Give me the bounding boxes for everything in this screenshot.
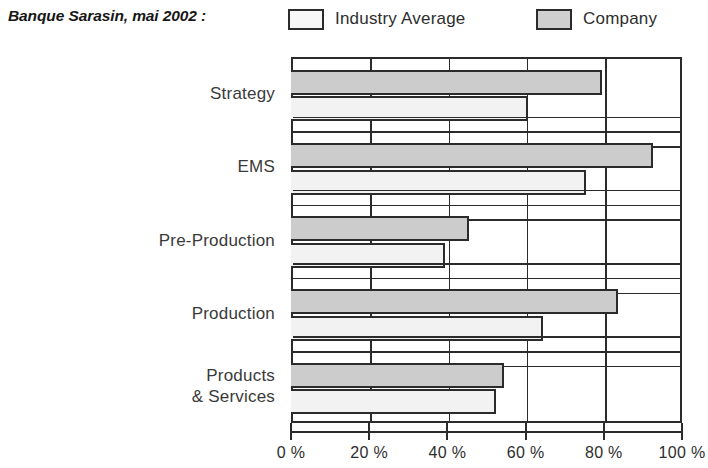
x-tick-label-20: 20 % [350,444,388,462]
x-tick-label-60: 60 % [507,444,545,462]
grid-rule [293,131,680,133]
bar-fill-company [291,363,504,388]
category-label-production: Production [192,303,275,324]
x-tick-0 [290,423,292,440]
grid-rule [293,190,680,192]
bar-company [291,289,618,314]
grid-rule [293,117,680,119]
bar-fill-company [291,70,602,95]
bar-company [291,70,602,95]
grid-rule [293,336,680,338]
page-title: Banque Sarasin, mai 2002 : [8,7,206,25]
category-axis-labels: StrategyEMSPre-ProductionProductionProdu… [0,57,283,423]
x-tick-label-80: 80 % [585,444,623,462]
bar-industry-average [291,389,496,414]
category-label-products-services: Products & Services [192,365,275,407]
grid-rule [293,351,680,353]
legend-swatch-icon-industry-average [288,9,324,30]
grid-rule [293,263,680,265]
plot-area [291,57,682,423]
x-tick-40 [446,423,448,440]
x-tick-label-100: 100 % [659,444,706,462]
x-tick-60 [525,423,527,440]
x-tick-label-40: 40 % [429,444,467,462]
legend-item-industry-average: Industry Average [288,6,465,32]
bar-company [291,363,504,388]
bar-fill-company [291,143,653,168]
x-axis: 0 %20 %40 %60 %80 %100 % [291,423,682,468]
legend-swatch-icon-company [536,9,572,30]
grid-rule [293,278,680,280]
category-label-ems: EMS [238,156,275,177]
x-tick-80 [603,423,605,440]
legend-label-industry-average: Industry Average [335,9,465,29]
bar-groups [293,59,680,421]
legend-item-company: Company [536,6,657,32]
bar-fill-company [291,289,618,314]
grid-rule [293,205,680,207]
bar-fill-industry-average [291,389,496,414]
bar-company [291,143,653,168]
x-tick-20 [368,423,370,440]
x-tick-label-0: 0 % [277,444,305,462]
category-label-pre-production: Pre-Production [159,230,275,251]
x-axis-line [291,431,682,433]
category-label-strategy: Strategy [210,83,275,104]
bar-fill-company [291,216,469,241]
bar-company [291,216,469,241]
x-tick-100 [681,423,683,440]
chart-header: Banque Sarasin, mai 2002 : Industry Aver… [0,0,708,46]
legend-label-company: Company [583,9,657,29]
